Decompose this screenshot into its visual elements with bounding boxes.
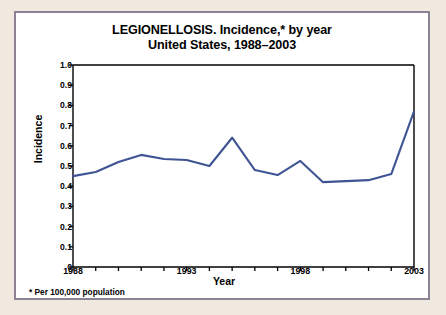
y-tick-label: 0.2 bbox=[46, 222, 72, 232]
y-tick-label: 0.7 bbox=[46, 121, 72, 131]
footnote: * Per 100,000 population bbox=[29, 287, 125, 297]
y-tick-label: 0.3 bbox=[46, 201, 72, 211]
y-tick-label: 0.9 bbox=[46, 80, 72, 90]
chart-card: LEGIONELLOSIS. Incidence,* by year Unite… bbox=[14, 11, 430, 300]
y-tick-label: 0.5 bbox=[46, 161, 72, 171]
chart-plot-area: 1.00.90.80.70.60.50.40.30.20.10 19881993… bbox=[16, 13, 432, 302]
y-axis-label: Incidence bbox=[32, 89, 44, 189]
y-axis-tick-labels: 1.00.90.80.70.60.50.40.30.20.10 bbox=[46, 13, 72, 302]
line-chart bbox=[16, 13, 432, 302]
x-axis-label: Year bbox=[16, 275, 432, 287]
y-tick-label: 1.0 bbox=[46, 60, 72, 70]
y-tick-label: 0.4 bbox=[46, 181, 72, 191]
y-tick-label: 0.8 bbox=[46, 100, 72, 110]
y-tick-label: 0.6 bbox=[46, 141, 72, 151]
y-tick-label: 0.1 bbox=[46, 242, 72, 252]
